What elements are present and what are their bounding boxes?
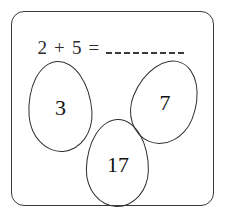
answer-option-egg-3[interactable]: 3 [25,59,95,154]
answer-blank[interactable] [106,41,188,54]
blank-dash [115,52,121,54]
blank-dash [151,52,157,54]
blank-dash [169,52,175,54]
blank-dash [142,52,148,54]
answer-option-label: 17 [106,153,128,175]
equation-row: 2 + 5 = [12,32,213,62]
equation-text: 2 + 5 = [37,38,100,57]
answer-option-label: 7 [159,92,170,114]
blank-dash [178,52,184,54]
blank-dash [124,52,130,54]
blank-dash [160,52,166,54]
blank-dash [106,52,112,54]
blank-dash [133,52,139,54]
answer-option-label: 3 [55,96,66,118]
math-problem-card: 2 + 5 = 3 7 17 [11,11,214,206]
